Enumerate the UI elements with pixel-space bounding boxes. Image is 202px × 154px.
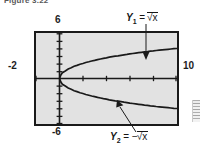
window-ymax-label: 6 bbox=[55, 14, 61, 25]
callout-leader-y2 bbox=[114, 100, 140, 132]
callout-y1-equals: = bbox=[139, 12, 145, 23]
window-xmax-label: 10 bbox=[183, 60, 194, 71]
page-edge-artifact bbox=[192, 100, 200, 122]
callout-y2-name: Y bbox=[110, 131, 117, 142]
window-ymin-label: -6 bbox=[52, 126, 61, 137]
callout-y2-subscript: 2 bbox=[117, 137, 121, 144]
window-xmin-label: -2 bbox=[8, 60, 17, 71]
callout-y2-expression: √x bbox=[137, 131, 149, 143]
callout-y1-name: Y bbox=[126, 12, 133, 23]
figure-container: Figure 3.22 bbox=[0, 0, 202, 154]
callout-leader-y1 bbox=[136, 24, 158, 60]
figure-caption: Figure 3.22 bbox=[4, 0, 48, 5]
callout-y1-expression: √x bbox=[147, 12, 159, 24]
callout-y2-equals: = bbox=[123, 131, 129, 142]
callout-label-y2: Y2 = −√x bbox=[110, 131, 148, 144]
curve-y1 bbox=[60, 49, 178, 79]
